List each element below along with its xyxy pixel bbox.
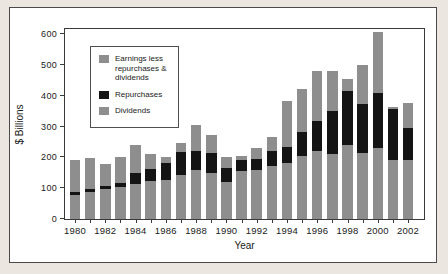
segment-repurchases <box>191 151 202 171</box>
bar-2002 <box>403 103 414 219</box>
x-tick <box>302 219 303 223</box>
segment-repurchases <box>327 111 338 154</box>
y-tick <box>60 187 65 188</box>
x-tick <box>151 219 152 223</box>
segment-earnings-less-repurchases-dividends <box>251 148 262 158</box>
segment-repurchases <box>176 152 187 175</box>
bar-1981 <box>85 158 96 219</box>
segment-dividends <box>267 166 278 219</box>
segment-repurchases <box>267 151 278 166</box>
legend-swatch-earnings-icon <box>99 55 109 63</box>
segment-earnings-less-repurchases-dividends <box>297 89 308 132</box>
segment-dividends <box>342 145 353 219</box>
segment-earnings-less-repurchases-dividends <box>191 125 202 151</box>
segment-dividends <box>297 156 308 219</box>
segment-earnings-less-repurchases-dividends <box>100 164 111 186</box>
bar-1983 <box>115 157 126 219</box>
segment-earnings-less-repurchases-dividends <box>130 145 141 173</box>
x-tick <box>211 219 212 223</box>
segment-earnings-less-repurchases-dividends <box>206 135 217 153</box>
x-tick <box>348 219 349 223</box>
legend-swatch-repurchases-icon <box>99 91 109 99</box>
segment-earnings-less-repurchases-dividends <box>342 79 353 91</box>
x-axis-title: Year <box>234 240 254 251</box>
segment-earnings-less-repurchases-dividends <box>176 143 187 152</box>
x-tick <box>363 219 364 223</box>
segment-dividends <box>282 163 293 219</box>
bar-1994 <box>282 101 293 219</box>
segment-repurchases <box>145 169 156 181</box>
bar-1986 <box>161 157 172 219</box>
y-tick-label: 600 <box>23 29 57 39</box>
y-tick <box>60 64 65 65</box>
x-tick-label: 1990 <box>209 225 243 236</box>
segment-repurchases <box>357 104 368 153</box>
segment-earnings-less-repurchases-dividends <box>267 137 278 151</box>
segment-repurchases <box>221 168 232 182</box>
x-tick <box>332 219 333 223</box>
y-tick-label: 300 <box>23 122 57 132</box>
x-tick <box>393 219 394 223</box>
bar-1991 <box>236 156 247 219</box>
segment-earnings-less-repurchases-dividends <box>115 157 126 182</box>
segment-dividends <box>251 170 262 219</box>
segment-repurchases <box>161 163 172 181</box>
segment-dividends <box>100 189 111 219</box>
figure-panel: $ Billions Year Earnings less repurchase… <box>9 7 437 263</box>
segment-earnings-less-repurchases-dividends <box>282 101 293 146</box>
segment-dividends <box>403 160 414 219</box>
bar-1997 <box>327 71 338 220</box>
x-tick-label: 1980 <box>58 225 92 236</box>
segment-repurchases <box>297 132 308 156</box>
segment-dividends <box>373 148 384 219</box>
segment-repurchases <box>403 128 414 161</box>
bar-1989 <box>206 135 217 219</box>
segment-repurchases <box>206 153 217 173</box>
legend-swatch-dividends-icon <box>99 107 109 115</box>
x-tick <box>317 219 318 223</box>
y-tick-label: 500 <box>23 60 57 70</box>
bar-1996 <box>312 71 323 219</box>
segment-dividends <box>236 171 247 219</box>
bar-1980 <box>70 160 81 219</box>
y-tick <box>60 126 65 127</box>
segment-repurchases <box>251 159 262 170</box>
y-tick-label: 400 <box>23 91 57 101</box>
segment-earnings-less-repurchases-dividends <box>221 157 232 167</box>
x-tick <box>120 219 121 223</box>
legend: Earnings less repurchases & dividends Re… <box>90 46 179 128</box>
bar-1993 <box>267 137 278 219</box>
segment-repurchases <box>312 121 323 151</box>
segment-dividends <box>161 180 172 219</box>
bar-2000 <box>373 32 384 219</box>
bar-1990 <box>221 157 232 219</box>
bar-1999 <box>357 65 368 219</box>
y-tick-label: 200 <box>23 152 57 162</box>
segment-dividends <box>176 175 187 219</box>
segment-repurchases <box>373 93 384 147</box>
segment-earnings-less-repurchases-dividends <box>403 103 414 128</box>
segment-earnings-less-repurchases-dividends <box>373 32 384 94</box>
x-tick-label: 2000 <box>361 225 395 236</box>
bar-1987 <box>176 143 187 219</box>
segment-dividends <box>388 160 399 219</box>
segment-earnings-less-repurchases-dividends <box>312 71 323 121</box>
x-tick-label: 1992 <box>240 225 274 236</box>
segment-dividends <box>130 184 141 219</box>
segment-dividends <box>70 195 81 219</box>
x-tick <box>90 219 91 223</box>
segment-earnings-less-repurchases-dividends <box>145 154 156 169</box>
x-tick <box>378 219 379 223</box>
segment-repurchases <box>130 173 141 183</box>
x-tick <box>181 219 182 223</box>
x-tick <box>242 219 243 223</box>
x-tick <box>196 219 197 223</box>
x-tick-label: 1998 <box>331 225 365 236</box>
y-tick-label: 0 <box>23 214 57 224</box>
x-tick <box>257 219 258 223</box>
bar-1992 <box>251 148 262 219</box>
segment-repurchases <box>342 91 353 145</box>
x-tick <box>136 219 137 223</box>
legend-item: Dividends <box>99 106 172 116</box>
y-tick <box>60 218 65 219</box>
